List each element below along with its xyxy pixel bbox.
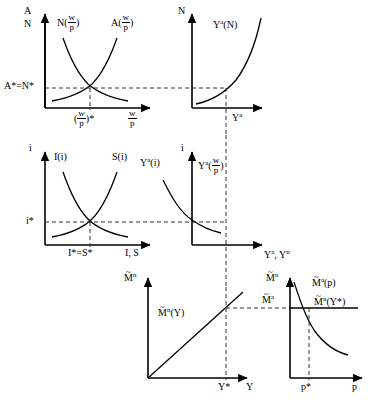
curve-label-N-suffix: ): [76, 17, 79, 28]
fraction-w-p-N: wp: [68, 13, 77, 32]
curve-label-Ma-p: ~Ma(p): [312, 277, 336, 288]
curve-label-Mn-Y: ~Mn(Y): [158, 307, 184, 318]
paren-close-star: )*: [86, 113, 94, 124]
fraction-den: p: [122, 23, 131, 32]
panel-bottom-right: [290, 278, 362, 380]
curve-label-Ya-N: Ya(N): [213, 19, 237, 30]
curve-label-A-wp: A(wp): [111, 14, 133, 33]
curve-label-N-prefix: N(: [57, 17, 68, 28]
fraction-w-p-axis: wp: [128, 109, 137, 128]
axis-label-N-top-right: N: [178, 6, 185, 16]
side-label-sup: a: [271, 293, 274, 301]
axis-label-sup: n: [133, 271, 137, 279]
tilde-mark: ~: [124, 268, 133, 277]
label-equilibrium-wp-star: (wp)*: [74, 110, 94, 129]
tilde-mark: ~: [314, 292, 323, 301]
curve-investment-I: [63, 172, 128, 237]
curve-label-S-i: S(i): [112, 152, 127, 162]
curve-label-N-wp: N(wp): [57, 14, 79, 33]
fraction-den: p: [77, 119, 86, 128]
side-label-Ma: ~Ma: [262, 294, 274, 305]
fraction-den: p: [212, 166, 221, 175]
panel-top-right: [192, 14, 262, 135]
axis-label-sup: a: [239, 111, 242, 119]
label-equilibrium-p-star: p*: [301, 382, 311, 392]
curve-label-Ya-i: Ya(i): [140, 157, 160, 168]
axis-label-i-mid-right: i: [181, 143, 184, 153]
label-equilibrium-A-N: A*=N*: [4, 81, 34, 91]
tilde-wrapper: ~M: [314, 297, 323, 307]
axis-label-N: N: [24, 19, 31, 29]
axis-label-Mn-bottom-right: ~Mn: [266, 272, 278, 283]
curve-label-arg: (i): [150, 157, 159, 168]
axis-label-sup: n: [275, 271, 279, 279]
tilde-mark: ~: [262, 290, 271, 299]
axis-label-Y-bottom-left: Y: [246, 382, 253, 392]
curve-label-Ya-wp: Ya(wp): [198, 157, 224, 176]
fraction-w-p-A: wp: [122, 13, 131, 32]
axis-label-p-bottom-right: p: [352, 382, 357, 392]
fraction-den: p: [128, 119, 137, 128]
label-equilibrium-i-star: i*: [26, 216, 34, 226]
tilde-wrapper: ~M: [312, 278, 321, 288]
macro-four-quadrant-diagram: [0, 0, 368, 401]
tilde-mark: ~: [312, 273, 321, 282]
tilde-wrapper: ~M: [158, 308, 167, 318]
label-arg: (Y*): [326, 296, 345, 307]
curve-label-A-prefix: A(: [111, 17, 122, 28]
axis-label-I-S: I, S: [125, 248, 139, 258]
axis-label-Ya-Yn: Ya, Yn: [264, 249, 290, 260]
axis-label-Mn-bottom-left: ~Mn: [124, 272, 136, 283]
tilde-mark: ~: [266, 268, 275, 277]
curve-label-I-i: I(i): [54, 152, 67, 162]
axis-label-sup2: n: [286, 248, 290, 256]
tilde-wrapper: ~M: [124, 273, 133, 283]
tilde-mark: ~: [158, 303, 167, 312]
curve-label-A-suffix: ): [130, 17, 133, 28]
axis-label-A: A: [24, 6, 31, 16]
curve-label-arg: (Y): [170, 307, 184, 318]
label-equilibrium-Y-star: Y*: [218, 382, 230, 392]
curve-labor-supply-A: [52, 38, 117, 101]
tilde-wrapper: ~M: [266, 273, 275, 283]
curve-label-arg: (N): [223, 19, 237, 30]
axis-label-i-mid-left: i: [29, 143, 32, 153]
axis-label-Y2: , Y: [274, 249, 286, 260]
fraction-w-p-star: wp: [77, 109, 86, 128]
axis-label-w-over-p: wp: [128, 110, 137, 129]
curve-saving-S: [52, 172, 117, 237]
curve-production-function: [196, 18, 261, 104]
curve-label-sup: a: [205, 159, 208, 167]
axis-label-Ya-top-right: Ya: [232, 112, 242, 123]
curve-label-arg: (p): [324, 277, 336, 288]
curve-labor-demand-N: [63, 38, 128, 101]
label-Mn-Ystar: ~Mn(Y*): [314, 296, 345, 307]
tilde-wrapper: ~M: [262, 295, 271, 305]
fraction-den: p: [68, 23, 77, 32]
label-equilibrium-I-S-star: I*=S*: [68, 248, 93, 258]
fraction-w-p-mid-right: wp: [212, 156, 221, 175]
